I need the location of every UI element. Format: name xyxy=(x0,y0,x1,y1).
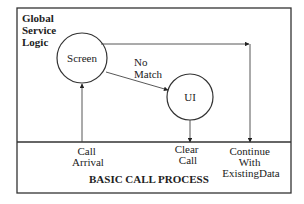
edge-no-match-label: No Match xyxy=(134,56,163,80)
event-continue-label: Continue With ExistingData xyxy=(222,145,280,179)
node-screen: Screen xyxy=(57,33,107,83)
node-screen-label: Screen xyxy=(67,52,97,64)
node-ui-label: UI xyxy=(184,91,196,103)
region-title-basic-call-process: BASIC CALL PROCESS xyxy=(89,173,209,185)
call-process-diagram: Global Service Logic Screen UI No Match … xyxy=(0,0,304,204)
event-call-arrival-label: Call Arrival xyxy=(72,145,104,168)
region-title-global-service-logic: Global Service Logic xyxy=(22,12,59,48)
event-clear-call-label: Clear Call xyxy=(175,143,202,166)
node-ui: UI xyxy=(167,74,213,120)
